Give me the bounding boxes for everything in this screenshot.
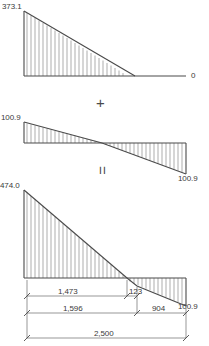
dimension-label-2500: 2,500: [94, 330, 114, 338]
dimension-label-1473: 1,473: [58, 288, 78, 296]
dimension-label-1596: 1,596: [63, 305, 83, 313]
dimension-label-123: 123: [129, 288, 142, 296]
dimension-label-904: 904: [152, 305, 165, 313]
moment-diagram-figure: 373.1 0 +: [0, 0, 209, 346]
dimension-lines-graphic: [0, 0, 209, 346]
